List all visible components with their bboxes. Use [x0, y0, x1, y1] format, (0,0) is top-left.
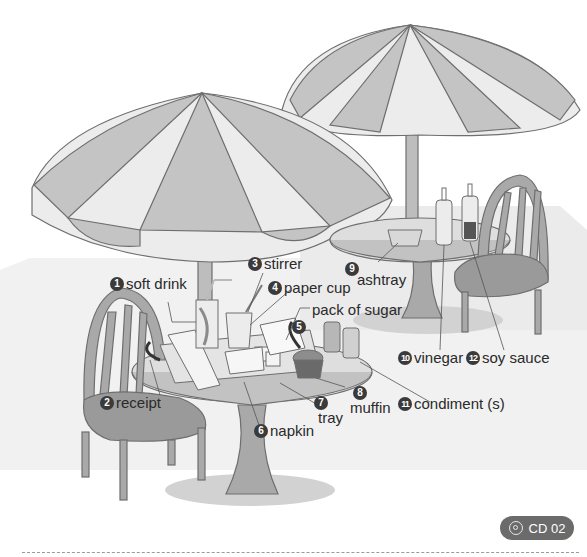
- label-muffin: 8 muffin: [350, 386, 391, 416]
- number-badge: 1: [110, 277, 124, 291]
- number-badge: 10: [398, 351, 412, 365]
- number-badge: 5: [292, 320, 306, 334]
- label-text: napkin: [270, 423, 314, 439]
- label-soft-drink: 1 soft drink: [110, 276, 187, 292]
- label-text: vinegar: [414, 350, 463, 366]
- cd-audio-button[interactable]: CD 02: [500, 516, 574, 540]
- cd-track-label: CD 02: [529, 521, 566, 536]
- label-condiment: 11 condiment (s): [398, 396, 505, 412]
- label-text: pack of sugar: [312, 302, 402, 318]
- number-badge: 2: [100, 396, 114, 410]
- cd-icon: [509, 521, 523, 535]
- label-receipt: 2 receipt: [100, 395, 161, 411]
- label-paper-cup: 4 paper cup: [268, 280, 351, 296]
- label-stirrer: 3 stirrer: [248, 256, 302, 272]
- label-text: paper cup: [284, 280, 351, 296]
- number-badge: 7: [314, 396, 328, 410]
- label-napkin: 6 napkin: [254, 423, 314, 439]
- vocabulary-illustration: 1 soft drink 2 receipt 3 stirrer 4 paper…: [0, 0, 587, 557]
- label-text: receipt: [116, 395, 161, 411]
- label-text: tray: [318, 410, 343, 426]
- number-badge: 11: [398, 397, 412, 411]
- label-text: condiment (s): [414, 396, 505, 412]
- label-pack-of-sugar: 5 pack of sugar: [298, 302, 402, 318]
- label-tray: 7 tray: [314, 396, 343, 426]
- number-badge: 12: [466, 351, 480, 365]
- number-badge: 6: [254, 424, 268, 438]
- number-badge: 8: [353, 386, 367, 400]
- label-vinegar: 10 vinegar: [398, 350, 463, 366]
- dashed-divider: [22, 552, 579, 553]
- label-text: soft drink: [126, 276, 187, 292]
- label-ashtray: 9 ashtray: [345, 262, 406, 288]
- label-text: stirrer: [264, 256, 302, 272]
- label-soy-sauce: 12 soy sauce: [466, 350, 550, 366]
- number-badge: 4: [268, 281, 282, 295]
- label-text: ashtray: [357, 272, 406, 288]
- label-text: soy sauce: [482, 350, 550, 366]
- number-badge: 3: [248, 257, 262, 271]
- label-text: muffin: [350, 400, 391, 416]
